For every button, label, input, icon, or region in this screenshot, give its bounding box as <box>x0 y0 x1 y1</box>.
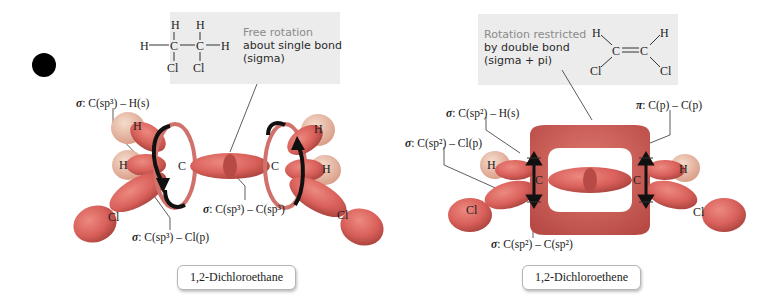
atom-h: H <box>487 158 496 173</box>
orbital-diagram <box>0 0 779 305</box>
atom-h: H <box>679 162 688 177</box>
atom-c: C <box>271 159 279 174</box>
label-sigma-ccl-ethene: σ: C(sp²) – Cl(p) <box>405 137 482 149</box>
atom-h: H <box>133 119 142 134</box>
atom-h: H <box>314 122 323 137</box>
label-sigma-ccl-ethane: σ: C(sp³) – Cl(p) <box>132 231 209 243</box>
atom-cl: Cl <box>108 210 119 225</box>
atom-c: C <box>535 173 543 188</box>
atom-cl: Cl <box>693 205 704 220</box>
label-sigma-cc-ethane: σ: C(sp³) – C(sp³) <box>203 203 285 215</box>
label-sigma-cc-ethene: σ: C(sp²) – C(sp²) <box>491 238 573 250</box>
atom-h: H <box>322 162 331 177</box>
atom-cl: Cl <box>337 208 348 223</box>
label-sigma-ch-ethane: σ: C(sp³) – H(s) <box>76 97 149 109</box>
atom-cl: Cl <box>466 203 477 218</box>
atom-c: C <box>633 173 641 188</box>
name-box-dichloroethane: 1,2-Dichloroethane <box>177 265 296 290</box>
atom-c: C <box>178 159 186 174</box>
name-box-dichloroethene: 1,2-Dichloroethene <box>522 265 641 290</box>
label-pi-cc-ethene: π: C(p) – C(p) <box>636 99 702 111</box>
atom-h: H <box>119 158 128 173</box>
label-sigma-ch-ethene: σ: C(sp²) – H(s) <box>446 107 519 119</box>
